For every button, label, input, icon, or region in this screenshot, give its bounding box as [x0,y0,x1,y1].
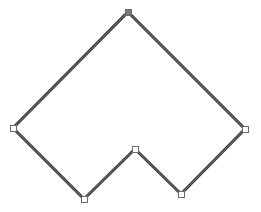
vertex-handle[interactable] [179,192,185,198]
polygon-shape[interactable] [13,12,245,199]
polygon-shape-inner-line [13,12,245,199]
vertex-handle-selected[interactable] [126,10,132,16]
vertex-handle[interactable] [82,197,88,203]
vertex-handle[interactable] [133,147,139,153]
vertex-handles [11,10,249,203]
drawing-canvas[interactable] [0,0,261,212]
vertex-handle[interactable] [11,126,17,132]
vertex-handle[interactable] [243,127,249,133]
